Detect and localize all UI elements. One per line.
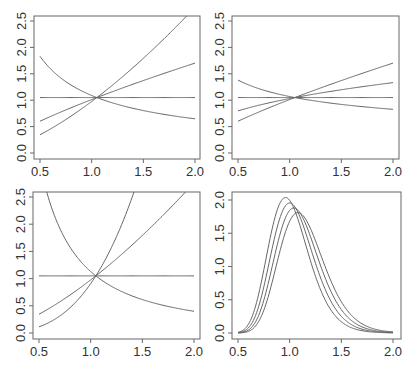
series-line (40, 63, 195, 121)
y-tick-label: 0.5 (212, 118, 227, 136)
y-tick-label: 0.0 (212, 144, 227, 162)
series-group (238, 63, 393, 121)
plot-frame (34, 16, 200, 159)
series-group (40, 7, 195, 135)
x-tick-label: 0.5 (229, 344, 247, 359)
y-tick-label: 1.0 (212, 91, 227, 109)
x-tick-label: 1.5 (133, 344, 151, 359)
x-tick-label: 1.5 (134, 164, 152, 179)
x-tick-label: 0.5 (229, 164, 247, 179)
series-line (238, 83, 393, 111)
x-tick-label: 2.0 (185, 344, 203, 359)
y-tick-label: 0.0 (13, 324, 28, 342)
x-tick-label: 2.0 (384, 164, 402, 179)
y-tick-label: 0.0 (14, 144, 29, 162)
y-tick-label: 1.5 (14, 65, 29, 83)
y-tick-label: 0.5 (212, 291, 227, 309)
series-line (238, 198, 393, 333)
x-tick-label: 1.5 (332, 164, 350, 179)
y-tick-label: 1.0 (212, 257, 227, 275)
panel-bottom-right: 0.51.01.52.00.00.51.01.52.0 (212, 191, 402, 359)
x-tick-label: 1.0 (82, 344, 100, 359)
x-tick-label: 1.0 (281, 164, 299, 179)
y-tick-label: 1.5 (212, 65, 227, 83)
series-line (238, 213, 393, 333)
plot-frame (232, 16, 399, 159)
x-tick-label: 0.5 (30, 344, 48, 359)
panel-bottom-left: 0.51.01.52.00.00.51.01.52.02.5 (13, 61, 203, 359)
y-tick-label: 1.5 (212, 224, 227, 242)
y-tick-label: 2.5 (14, 12, 29, 30)
series-group (238, 198, 393, 333)
y-tick-label: 2.0 (212, 191, 227, 209)
y-tick-label: 2.0 (13, 215, 28, 233)
y-tick-label: 2.0 (14, 38, 29, 56)
x-tick-label: 0.5 (31, 164, 49, 179)
series-line (40, 56, 195, 119)
series-line (238, 208, 393, 333)
x-tick-label: 1.5 (332, 344, 350, 359)
x-tick-label: 1.0 (83, 164, 101, 179)
series-line (39, 159, 194, 311)
y-tick-label: 1.5 (13, 242, 28, 260)
series-line (238, 203, 393, 333)
y-tick-label: 2.5 (212, 12, 227, 30)
x-tick-label: 2.0 (186, 164, 204, 179)
y-tick-label: 2.0 (212, 38, 227, 56)
series-line (39, 183, 194, 314)
x-tick-label: 1.0 (281, 344, 299, 359)
figure-2x2-panels: 0.51.01.52.00.00.51.01.52.02.5 0.51.01.5… (0, 0, 417, 371)
series-group (39, 61, 194, 327)
y-tick-label: 0.5 (13, 297, 28, 315)
y-tick-label: 1.0 (14, 91, 29, 109)
plot-canvas: 0.51.01.52.00.00.51.01.52.02.5 0.51.01.5… (0, 0, 417, 371)
y-tick-label: 1.0 (13, 270, 28, 288)
y-tick-label: 2.5 (13, 188, 28, 206)
panel-top-left: 0.51.01.52.00.00.51.01.52.02.5 (14, 7, 204, 179)
y-tick-label: 0.5 (14, 118, 29, 136)
x-tick-label: 2.0 (384, 344, 402, 359)
y-tick-label: 0.0 (212, 324, 227, 342)
panel-top-right: 0.51.01.52.00.00.51.01.52.02.5 (212, 12, 402, 179)
series-line (39, 61, 194, 327)
series-line (238, 63, 393, 121)
